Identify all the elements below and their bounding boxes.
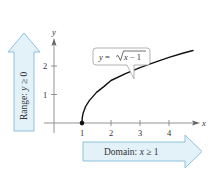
x-tick-label: 4 — [167, 128, 172, 138]
range-label: Range: y ≥ 0 — [19, 72, 29, 120]
y-tick-label: 1 — [43, 90, 47, 100]
domain-arrow: Domain: x ≥ 1 — [83, 135, 202, 168]
start-point — [80, 121, 85, 126]
equation-radicand: x − 1 — [123, 52, 141, 62]
domain-label: Domain: x ≥ 1 — [104, 147, 159, 157]
y-tick-label: 2 — [43, 61, 47, 71]
x-tick-label: 3 — [138, 128, 142, 138]
y-axis-label: y — [51, 27, 56, 37]
equation-label: y = — [98, 52, 110, 62]
range-arrow: Range: y ≥ 0 — [8, 33, 40, 131]
x-tick-label: 2 — [109, 128, 113, 138]
x-tick-label: 1 — [80, 128, 84, 138]
function-graph: Range: y ≥ 0 Domain: x ≥ 1 x y 1 2 3 4 — [0, 0, 214, 172]
equation-callout: y = x − 1 — [93, 48, 150, 79]
x-axis-label: x — [201, 118, 206, 128]
axes: x y 1 2 3 4 1 2 — [43, 27, 206, 138]
